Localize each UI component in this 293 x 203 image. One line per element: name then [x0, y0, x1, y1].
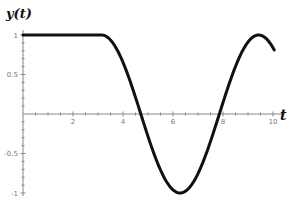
x-tick-label: 8	[221, 118, 225, 126]
line-chart: 24681010.5-0.5-1 y(t) t	[0, 0, 293, 203]
y-tick-label: -0.5	[4, 150, 18, 158]
y-tick-label: 1	[14, 32, 18, 40]
x-tick-label: 10	[269, 118, 278, 126]
x-tick-label: 6	[171, 118, 176, 126]
x-tick-label: 2	[71, 118, 75, 126]
axes	[23, 30, 285, 196]
x-axis-title: t	[280, 107, 287, 123]
y-tick-label: -1	[11, 190, 18, 198]
x-tick-label: 4	[121, 118, 126, 126]
y-tick-label: 0.5	[7, 71, 18, 79]
y-axis-title: y(t)	[5, 6, 32, 21]
